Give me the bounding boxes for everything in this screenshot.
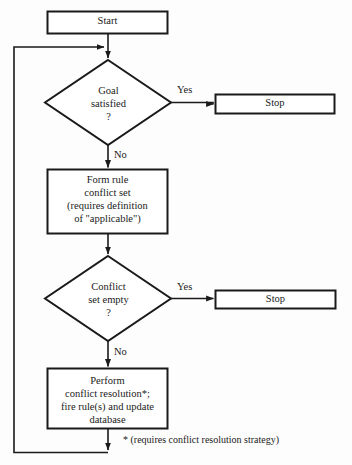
edge-label-conflict-yes: Yes: [177, 281, 192, 292]
node-start: [47, 11, 168, 34]
node-perform-conflict-resolution: [47, 368, 168, 429]
flowchart-diagram: Start Goal satisfied ? Stop Form rule co…: [0, 0, 352, 465]
node-conflict-set-empty: [45, 256, 171, 341]
node-stop-conflict: [215, 290, 336, 309]
edge-label-conflict-no: No: [114, 346, 127, 357]
node-form-rule-conflict-set: [47, 169, 168, 234]
node-stop-goal: [215, 94, 335, 114]
edge-label-goal-yes: Yes: [177, 84, 192, 95]
node-goal-satisfied: [45, 60, 171, 145]
footnote-conflict-resolution-strategy: * (requires conflict resolution strategy…: [123, 434, 279, 445]
edge-label-goal-no: No: [114, 149, 127, 160]
edge-goal-yes-to-stop: [171, 103, 214, 105]
